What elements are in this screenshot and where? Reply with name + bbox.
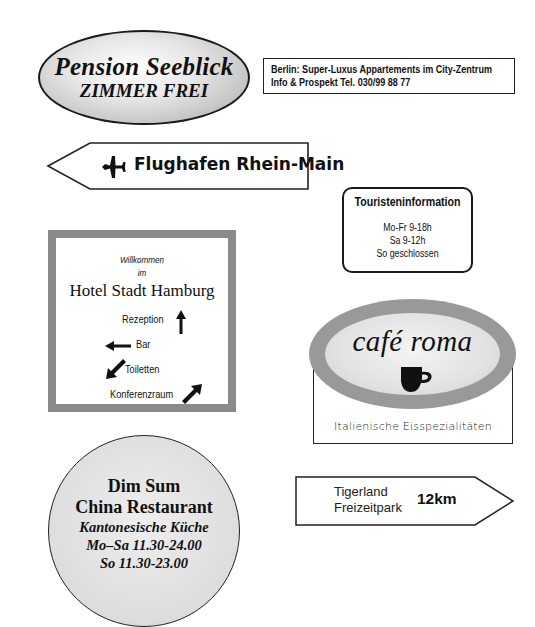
hotel-welcome: Willkommen (69, 254, 215, 265)
direction-bar: Bar (136, 338, 150, 350)
cafe-subtitle: Italienische Eisspezialitäten (313, 420, 513, 433)
hours-sunday: So geschlossen (352, 247, 464, 260)
coffee-cup-icon (400, 367, 434, 393)
dimsum-name: Dim Sum (49, 476, 239, 497)
airport-label: Flughafen Rhein-Main (134, 154, 344, 174)
tourist-info-title: Touristeninformation (354, 195, 462, 209)
airplane-icon (101, 155, 127, 179)
dim-sum-sign: Dim Sum China Restaurant Kantonesische K… (48, 435, 240, 627)
arrow-down-left-icon (106, 359, 126, 379)
right-arrow-sign-shape (294, 475, 516, 529)
pension-title: Pension Seeblick (40, 53, 248, 80)
hotel-sign: Willkommen im Hotel Stadt Hamburg Rezept… (48, 230, 236, 412)
tigerland-line-1: Tigerland (334, 484, 402, 500)
tourist-info-sign: Touristeninformation Mo-Fr 9-18h Sa 9-12… (342, 187, 473, 273)
pension-subtitle: ZIMMER FREI (40, 80, 248, 102)
hours-weekday: Mo-Fr 9-18h (352, 221, 464, 234)
dimsum-cuisine: Kantonesische Küche (49, 518, 239, 536)
airport-direction-sign: Flughafen Rhein-Main (46, 142, 310, 192)
dimsum-hours-sunday: So 11.30-23.00 (49, 554, 239, 572)
arrow-left-icon (105, 341, 131, 351)
direction-reception: Rezeption (122, 313, 164, 325)
direction-conference: Konferenzraum (110, 388, 173, 400)
berlin-ad-box: Berlin: Super-Luxus Appartements im City… (263, 58, 515, 94)
tigerland-distance: 12km (417, 490, 457, 508)
dimsum-hours-weekdays: Mo–Sa 11.30-24.00 (49, 536, 239, 554)
pension-seeblick-sign: Pension Seeblick ZIMMER FREI (38, 30, 250, 125)
berlin-line-1: Berlin: Super-Luxus Appartements im City… (271, 63, 474, 76)
arrow-up-right-icon (182, 384, 202, 404)
hotel-in: im (69, 267, 215, 278)
tigerland-direction-sign: Tigerland Freizeitpark 12km (294, 475, 516, 529)
tigerland-name: Tigerland Freizeitpark (334, 484, 402, 516)
direction-toilets: Toiletten (125, 363, 159, 375)
arrow-up-icon (176, 310, 186, 334)
berlin-line-2: Info & Prospekt Tel. 030/99 88 77 (271, 76, 474, 89)
cafe-title: café roma (310, 325, 515, 358)
hotel-name: Hotel Stadt Hamburg (56, 281, 228, 301)
dimsum-restaurant: China Restaurant (49, 497, 239, 518)
hours-saturday: Sa 9-12h (352, 234, 464, 247)
tigerland-line-2: Freizeitpark (334, 500, 402, 516)
